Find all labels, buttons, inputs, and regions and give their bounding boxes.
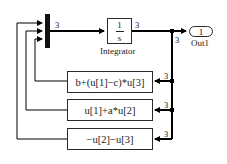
fcn-block-1[interactable]: b+(u[1]−c)*u[3] [67, 71, 153, 93]
integrator-block[interactable]: 1 s [107, 18, 132, 44]
fcn-1-expression: b+(u[1]−c)*u[3] [76, 77, 145, 88]
signal-width-fcn3: 3 [164, 129, 168, 139]
integrator-denominator: s [118, 33, 122, 43]
mux-block [45, 14, 50, 48]
integrator-numerator: 1 [117, 20, 122, 30]
fcn-3-expression: −u[2]−u[3] [87, 134, 134, 145]
fcn-2-expression: u[1]+a*u[2] [85, 105, 136, 116]
signal-width-integrator-out: 3 [135, 20, 139, 30]
signal-width-branch: 3 [175, 35, 179, 45]
signal-width-mux-out: 3 [55, 20, 59, 30]
outport-number: 1 [199, 27, 204, 37]
signal-width-fcn2: 3 [164, 100, 168, 110]
outport-label: Out1 [191, 38, 209, 48]
outport-block[interactable]: 1 [189, 26, 213, 37]
fcn-block-2[interactable]: u[1]+a*u[2] [67, 99, 153, 121]
integrator-label: Integrator [100, 46, 135, 56]
fcn-block-3[interactable]: −u[2]−u[3] [67, 128, 153, 150]
transfer-function: 1 s [116, 20, 124, 43]
signal-width-fcn1: 3 [164, 71, 168, 81]
